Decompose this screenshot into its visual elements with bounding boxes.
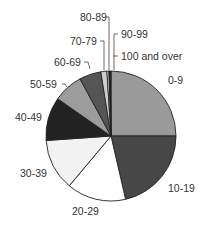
slice-label-30-39: 30-39: [20, 167, 47, 179]
leader-line-90-99: [114, 34, 118, 70]
slice-label-60-69: 60-69: [54, 56, 81, 68]
pie-slice-0-9: [111, 71, 176, 136]
slice-label-0-9: 0-9: [168, 74, 183, 86]
leader-line-80-89: [106, 17, 109, 70]
slice-label-10-19: 10-19: [168, 182, 195, 194]
slice-label-40-49: 40-49: [15, 111, 42, 123]
pie-slices: [46, 71, 176, 201]
slice-label-100-and-over: 100 and over: [121, 50, 183, 62]
leader-line-50-59: [62, 84, 67, 87]
slice-label-70-79: 70-79: [70, 35, 97, 47]
slice-label-80-89: 80-89: [80, 11, 107, 23]
pie-chart: 0-910-1920-2930-3940-4950-5960-6970-7980…: [0, 0, 205, 225]
slice-label-50-59: 50-59: [30, 78, 57, 90]
slice-label-20-29: 20-29: [72, 205, 99, 217]
leader-line-70-79: [100, 41, 104, 70]
leader-line-60-69: [84, 62, 90, 69]
slice-label-90-99: 90-99: [121, 28, 148, 40]
